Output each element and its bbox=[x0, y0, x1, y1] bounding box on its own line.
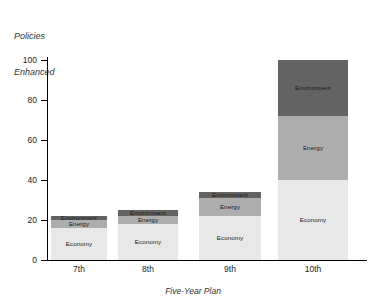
segment-label-energy: Energy bbox=[220, 204, 240, 210]
segment-label-energy: Energy bbox=[303, 145, 323, 151]
bar-10th[interactable]: EnvironmentEnergyEconomy bbox=[278, 60, 348, 260]
segment-label-economy: Economy bbox=[217, 235, 244, 241]
x-category-label-8th: 8th bbox=[113, 264, 183, 274]
x-category-label-7th: 7th bbox=[44, 264, 114, 274]
x-category-label-9th: 9th bbox=[195, 264, 265, 274]
y-tick-label-100: 100 bbox=[7, 55, 37, 65]
segment-label-economy: Economy bbox=[66, 241, 93, 247]
y-tick-80 bbox=[41, 100, 47, 101]
bar-8th[interactable]: EnvironmentEnergyEconomy bbox=[118, 210, 178, 260]
y-axis-title: Policies Enhanced bbox=[14, 6, 55, 102]
y-tick-60 bbox=[41, 140, 47, 141]
y-tick-label-20: 20 bbox=[7, 215, 37, 225]
y-tick-20 bbox=[41, 220, 47, 221]
y-tick-label-60: 60 bbox=[7, 135, 37, 145]
bar-segment-7th-energy[interactable]: Energy bbox=[51, 220, 107, 228]
bar-7th[interactable]: EnvironmentEnergyEconomy bbox=[51, 216, 107, 260]
y-axis-title-line2: Enhanced bbox=[14, 66, 55, 78]
x-category-label-10th: 10th bbox=[278, 264, 348, 274]
x-axis-title: Five-Year Plan bbox=[0, 286, 386, 296]
y-tick-label-0: 0 bbox=[7, 255, 37, 265]
bar-segment-10th-energy[interactable]: Energy bbox=[278, 116, 348, 180]
bar-segment-10th-economy[interactable]: Economy bbox=[278, 180, 348, 260]
bar-segment-9th-economy[interactable]: Economy bbox=[199, 216, 261, 260]
y-tick-40 bbox=[41, 180, 47, 181]
x-axis-line bbox=[45, 260, 367, 261]
bar-segment-10th-environment[interactable]: Environment bbox=[278, 60, 348, 116]
segment-label-economy: Economy bbox=[300, 217, 327, 223]
y-axis-line bbox=[47, 57, 48, 261]
segment-label-economy: Economy bbox=[135, 239, 162, 245]
bar-segment-7th-economy[interactable]: Economy bbox=[51, 228, 107, 260]
y-tick-0 bbox=[41, 260, 47, 261]
y-axis-title-line1: Policies bbox=[14, 30, 55, 42]
stacked-bar-chart: Policies Enhanced 100806040200 Environme… bbox=[0, 0, 386, 308]
segment-label-environment: Environment bbox=[295, 85, 331, 91]
y-tick-100 bbox=[41, 60, 47, 61]
bar-segment-9th-energy[interactable]: Energy bbox=[199, 198, 261, 216]
y-tick-label-40: 40 bbox=[7, 175, 37, 185]
bar-segment-8th-economy[interactable]: Economy bbox=[118, 224, 178, 260]
bar-segment-8th-energy[interactable]: Energy bbox=[118, 216, 178, 224]
segment-label-energy: Energy bbox=[69, 221, 89, 227]
segment-label-energy: Energy bbox=[138, 217, 158, 223]
bar-9th[interactable]: EnvironmentEnergyEconomy bbox=[199, 192, 261, 260]
y-tick-label-80: 80 bbox=[7, 95, 37, 105]
